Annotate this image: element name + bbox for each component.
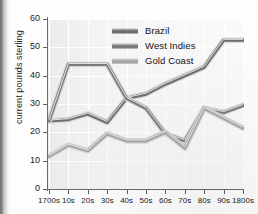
- x-tick-mark: [49, 190, 50, 194]
- y-tick-label: 0: [18, 183, 40, 193]
- legend-item[interactable]: Brazil: [112, 23, 196, 38]
- y-tick-label: 10: [18, 155, 40, 165]
- x-tick-mark: [165, 190, 166, 194]
- scanned-page-spine: [0, 0, 3, 214]
- y-tick-label: 20: [18, 126, 40, 136]
- x-tick-mark: [185, 190, 186, 194]
- legend-swatch-icon: [112, 58, 138, 64]
- x-tick-mark: [127, 190, 128, 194]
- y-tick-label: 40: [18, 70, 40, 80]
- x-axis-line: [47, 189, 244, 190]
- series-line-halo: [49, 64, 243, 141]
- legend-swatch-icon: [112, 28, 138, 34]
- legend-label: Brazil: [145, 25, 169, 36]
- x-tick-mark: [88, 190, 89, 194]
- y-tick-label: 60: [18, 13, 40, 23]
- legend-label: West Indies: [145, 40, 196, 51]
- x-tick-mark: [146, 190, 147, 194]
- legend-item[interactable]: West Indies: [112, 38, 196, 53]
- x-tick-mark: [68, 190, 69, 194]
- x-tick-mark: [243, 190, 244, 194]
- x-tick-mark: [107, 190, 108, 194]
- chart-figure: current pounds sterling 0102030405060 17…: [0, 0, 258, 214]
- series-line-highlight: [49, 63, 243, 140]
- legend-item[interactable]: Gold Coast: [112, 53, 196, 68]
- x-tick-mark: [224, 190, 225, 194]
- x-tick-mark: [204, 190, 205, 194]
- x-tick-label: 1800s: [228, 196, 258, 205]
- legend-swatch-icon: [112, 43, 138, 49]
- series-line: [49, 64, 243, 141]
- legend-label: Gold Coast: [145, 55, 194, 66]
- y-tick-label: 50: [18, 41, 40, 51]
- chart-legend: BrazilWest IndiesGold Coast: [112, 23, 196, 68]
- y-tick-label: 30: [18, 98, 40, 108]
